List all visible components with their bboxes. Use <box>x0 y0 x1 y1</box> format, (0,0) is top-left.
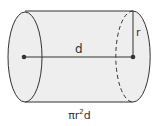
formula-prefix: πr <box>68 109 79 122</box>
left-center-dot <box>22 55 27 60</box>
formula-suffix: d <box>84 109 91 122</box>
right-center-dot <box>131 55 136 60</box>
length-label: d <box>75 43 83 55</box>
volume-formula: πr2d <box>0 108 159 122</box>
radius-label: r <box>136 27 141 38</box>
